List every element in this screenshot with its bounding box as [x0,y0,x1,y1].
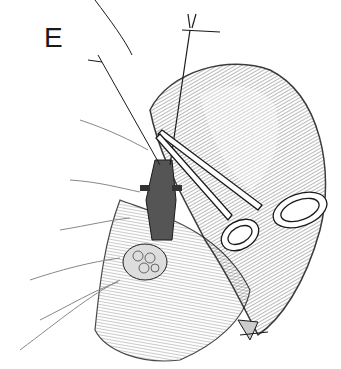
surgical-illustration [0,0,341,369]
retraction-suture-left [88,0,160,165]
fatty-tissue [123,244,167,280]
